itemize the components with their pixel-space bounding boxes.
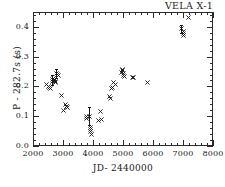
y-minor-tick bbox=[33, 122, 36, 123]
y-minor-tick-right bbox=[210, 75, 213, 76]
x-minor-tick-top bbox=[129, 12, 130, 15]
data-point-marker bbox=[130, 75, 135, 80]
y-minor-tick bbox=[33, 63, 36, 64]
error-bar bbox=[89, 107, 90, 125]
x-minor-tick-top bbox=[135, 12, 136, 15]
data-point-marker bbox=[107, 94, 112, 99]
error-bar bbox=[181, 25, 182, 32]
y-minor-tick bbox=[33, 33, 36, 34]
y-minor-tick-right bbox=[210, 63, 213, 64]
x-minor-tick bbox=[75, 143, 76, 146]
y-major-tick-right bbox=[207, 27, 213, 28]
data-point-marker bbox=[96, 118, 101, 123]
x-minor-tick bbox=[171, 143, 172, 146]
x-minor-tick bbox=[177, 143, 178, 146]
data-point-marker bbox=[110, 85, 115, 90]
x-axis-label: JD- 2440000 bbox=[33, 163, 213, 173]
x-minor-tick-top bbox=[165, 12, 166, 15]
x-minor-tick bbox=[117, 143, 118, 146]
data-point-marker bbox=[109, 86, 114, 91]
y-minor-tick bbox=[33, 21, 36, 22]
x-minor-tick-top bbox=[117, 12, 118, 15]
error-bar-cap-bottom bbox=[55, 78, 58, 79]
x-minor-tick bbox=[51, 143, 52, 146]
x-minor-tick bbox=[159, 143, 160, 146]
y-minor-tick bbox=[33, 134, 36, 135]
data-point-marker bbox=[44, 82, 49, 87]
data-point-marker bbox=[99, 117, 104, 122]
y-minor-tick bbox=[33, 45, 36, 46]
x-minor-tick bbox=[105, 143, 106, 146]
error-bar-cap-top bbox=[55, 69, 58, 70]
x-minor-tick bbox=[141, 143, 142, 146]
data-point-marker bbox=[61, 108, 66, 113]
x-minor-tick-top bbox=[105, 12, 106, 15]
data-point-marker bbox=[98, 109, 103, 114]
y-minor-tick bbox=[33, 98, 36, 99]
data-point-marker bbox=[65, 105, 70, 110]
data-point-marker bbox=[121, 73, 126, 78]
y-minor-tick-right bbox=[210, 128, 213, 129]
y-major-tick bbox=[33, 116, 39, 117]
x-minor-tick bbox=[129, 143, 130, 146]
x-major-tick-top bbox=[153, 12, 154, 18]
y-minor-tick bbox=[33, 39, 36, 40]
y-major-tick-right bbox=[207, 57, 213, 58]
data-point-marker bbox=[64, 104, 69, 109]
x-minor-tick-top bbox=[45, 12, 46, 15]
error-bar-cap-top bbox=[51, 75, 54, 76]
x-minor-tick bbox=[201, 143, 202, 146]
x-minor-tick bbox=[69, 143, 70, 146]
y-minor-tick-right bbox=[210, 92, 213, 93]
x-minor-tick-top bbox=[189, 12, 190, 15]
x-minor-tick-top bbox=[177, 12, 178, 15]
data-point-marker bbox=[119, 70, 124, 75]
plot-area bbox=[33, 12, 213, 146]
error-bar bbox=[56, 69, 57, 79]
x-minor-tick-top bbox=[195, 12, 196, 15]
y-minor-tick bbox=[33, 104, 36, 105]
data-point-marker bbox=[121, 71, 126, 76]
data-point-marker bbox=[145, 80, 150, 85]
chart-title: VELA X-1 bbox=[0, 0, 213, 11]
x-minor-tick bbox=[165, 143, 166, 146]
y-tick-label: 0.0 bbox=[3, 141, 29, 150]
error-bar-cap-bottom bbox=[88, 125, 91, 126]
y-major-tick bbox=[33, 27, 39, 28]
x-minor-tick bbox=[39, 143, 40, 146]
y-minor-tick bbox=[33, 110, 36, 111]
x-minor-tick-top bbox=[69, 12, 70, 15]
x-minor-tick bbox=[81, 143, 82, 146]
data-point-marker bbox=[63, 102, 68, 107]
x-minor-tick bbox=[189, 143, 190, 146]
error-bar-cap-bottom bbox=[51, 85, 54, 86]
data-point-marker bbox=[131, 75, 136, 80]
x-minor-tick bbox=[45, 143, 46, 146]
x-major-tick bbox=[183, 140, 184, 146]
y-minor-tick-right bbox=[210, 80, 213, 81]
x-minor-tick bbox=[99, 143, 100, 146]
data-point-marker bbox=[122, 74, 127, 79]
x-major-tick bbox=[123, 140, 124, 146]
y-minor-tick bbox=[33, 80, 36, 81]
x-minor-tick-top bbox=[51, 12, 52, 15]
x-minor-tick bbox=[195, 143, 196, 146]
data-point-marker bbox=[48, 86, 53, 91]
x-minor-tick-top bbox=[141, 12, 142, 15]
data-point-marker bbox=[120, 67, 125, 72]
y-minor-tick-right bbox=[210, 15, 213, 16]
data-point-marker bbox=[108, 96, 113, 101]
y-minor-tick-right bbox=[210, 98, 213, 99]
x-minor-tick-top bbox=[99, 12, 100, 15]
y-minor-tick-right bbox=[210, 45, 213, 46]
x-major-tick-top bbox=[93, 12, 94, 18]
x-minor-tick-top bbox=[159, 12, 160, 15]
x-major-tick bbox=[63, 140, 64, 146]
x-minor-tick bbox=[111, 143, 112, 146]
data-point-marker bbox=[53, 79, 58, 84]
y-major-tick bbox=[33, 57, 39, 58]
x-minor-tick bbox=[57, 143, 58, 146]
data-point-marker bbox=[59, 93, 64, 98]
y-minor-tick bbox=[33, 140, 36, 141]
y-minor-tick-right bbox=[210, 21, 213, 22]
